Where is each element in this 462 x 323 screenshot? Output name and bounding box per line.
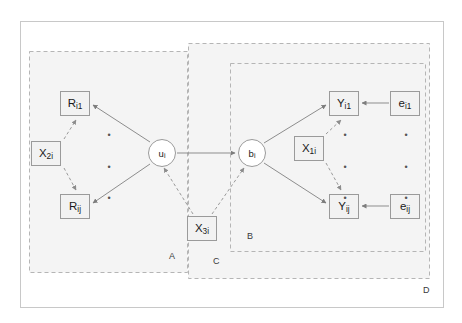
node-R-ij[interactable]: Rij	[60, 194, 90, 219]
ellipsis-dot: •	[404, 131, 407, 140]
node-u-i[interactable]: ui	[148, 139, 176, 167]
group-label-A: A	[169, 251, 175, 261]
ellipsis-right-Y: • • •	[339, 131, 351, 203]
node-label: Ri1	[68, 98, 83, 110]
node-X-2i[interactable]: X2i	[31, 141, 61, 166]
ellipsis-right-e: • • •	[400, 131, 412, 203]
node-label: bi	[249, 148, 256, 159]
node-b-i[interactable]: bi	[238, 139, 266, 167]
node-e-i1[interactable]: ei1	[390, 91, 420, 116]
node-label: Rij	[69, 201, 81, 213]
diagram-edges-layer	[0, 0, 462, 323]
group-label-D: D	[423, 285, 430, 295]
ellipsis-dot: •	[404, 194, 407, 203]
ellipsis-dot: •	[343, 163, 346, 172]
ellipsis-dot: •	[343, 131, 346, 140]
ellipsis-dot: •	[404, 163, 407, 172]
node-label: X1i	[302, 143, 316, 155]
ellipsis-dot: •	[107, 131, 110, 140]
diagram-canvas: Ri1 Rij X2i ui bi X3i X1i Yi1 Yij ei1 ei…	[0, 0, 462, 323]
group-label-C: C	[213, 256, 220, 266]
node-R-i1[interactable]: Ri1	[60, 91, 90, 116]
node-Y-i1[interactable]: Yi1	[329, 91, 359, 116]
group-rects	[21, 22, 444, 308]
node-label: X2i	[39, 148, 53, 160]
ellipsis-left-R: • • •	[103, 131, 115, 203]
ellipsis-dot: •	[107, 194, 110, 203]
node-label: X3i	[195, 223, 209, 235]
ellipsis-dot: •	[343, 194, 346, 203]
node-label: ui	[159, 148, 166, 159]
node-X-3i[interactable]: X3i	[187, 216, 217, 241]
node-X-1i[interactable]: X1i	[294, 136, 324, 161]
ellipsis-dot: •	[107, 163, 110, 172]
group-label-B: B	[247, 231, 253, 241]
node-label: Yi1	[337, 98, 351, 110]
node-label: ei1	[399, 98, 412, 110]
